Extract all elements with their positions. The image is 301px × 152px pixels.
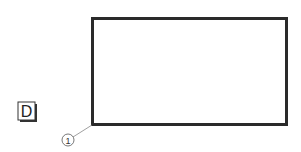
callout-1: 1 [62, 134, 74, 146]
main-rectangle [93, 19, 287, 125]
diagram-canvas: D 1 [0, 0, 301, 152]
callout-text: 1 [65, 136, 70, 146]
label-box-text: D [21, 103, 33, 120]
label-box-d: D [18, 102, 37, 122]
leader-line [73, 125, 92, 137]
